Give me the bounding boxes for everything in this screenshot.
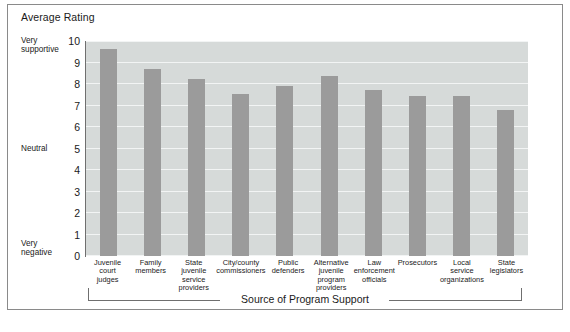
x-axis-label: Lawenforcementofficials — [353, 259, 396, 284]
x-axis-label-line: defenders — [268, 267, 309, 275]
y-tick-label-4: 4 — [58, 165, 80, 176]
x-axis-label-line: members — [130, 267, 171, 275]
chart-title: Average Rating — [21, 11, 95, 23]
bar — [276, 86, 293, 256]
y-tick-label-8: 8 — [58, 79, 80, 90]
x-axis-label-line: legislators — [486, 267, 527, 275]
bar — [453, 96, 470, 256]
bar-slot — [395, 41, 439, 256]
figure-root: Average Rating Very supportive Neutral V… — [0, 0, 570, 332]
bar-slot — [307, 41, 351, 256]
bar — [100, 49, 117, 256]
bracket-label: Source of Program Support — [88, 293, 522, 306]
x-axis-label: Familymembers — [129, 259, 172, 276]
y-tick-label-1: 1 — [58, 230, 80, 241]
bar — [497, 110, 514, 256]
bar-slot — [174, 41, 218, 256]
y-tick-label-2: 2 — [58, 208, 80, 219]
bar — [321, 76, 338, 256]
bars-layer — [86, 41, 528, 256]
bar — [409, 96, 426, 256]
bar-slot — [263, 41, 307, 256]
x-axis-label: Localserviceorganizations — [439, 259, 485, 284]
x-axis-label: Publicdefenders — [267, 259, 310, 276]
bar-slot — [440, 41, 484, 256]
bar — [232, 94, 249, 256]
bar-slot — [86, 41, 130, 256]
y-anchor-very-negative-line1: Very — [21, 239, 77, 248]
x-axis-label-line: commissioners — [216, 267, 265, 275]
bar-slot — [219, 41, 263, 256]
x-axis-label-line: judges — [87, 276, 128, 284]
x-axis-label-line: organizations — [440, 276, 484, 284]
bar-slot — [484, 41, 528, 256]
bar-slot — [351, 41, 395, 256]
y-tick-label-0: 0 — [58, 251, 80, 262]
x-axis-label-line: Prosecutors — [397, 259, 438, 267]
bar — [144, 69, 161, 256]
bar-slot — [130, 41, 174, 256]
y-tick-label-3: 3 — [58, 187, 80, 198]
bar — [188, 79, 205, 256]
x-axis-label-line: officials — [354, 276, 395, 284]
plot-area — [86, 41, 528, 256]
x-axis-label: City/countycommissioners — [215, 259, 266, 276]
x-axis-label: Juvenilecourtjudges — [86, 259, 129, 284]
y-tick-label-7: 7 — [58, 101, 80, 112]
y-tick-label-5: 5 — [58, 144, 80, 155]
x-axis-bracket: Source of Program Support — [88, 288, 522, 302]
y-tick-label-9: 9 — [58, 58, 80, 69]
y-tick-label-6: 6 — [58, 122, 80, 133]
bar — [365, 90, 382, 256]
x-axis-label: Prosecutors — [396, 259, 439, 267]
x-axis-label: Statelegislators — [485, 259, 528, 276]
y-tick-label-10: 10 — [58, 36, 80, 47]
